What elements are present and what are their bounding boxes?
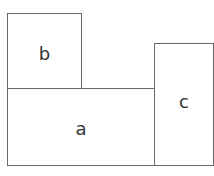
box-a-label: a [75, 118, 86, 139]
box-c: c [154, 43, 214, 166]
box-a: a [7, 88, 155, 166]
box-b-label: b [39, 43, 50, 64]
box-c-label: c [179, 91, 189, 112]
box-b: b [7, 13, 82, 90]
